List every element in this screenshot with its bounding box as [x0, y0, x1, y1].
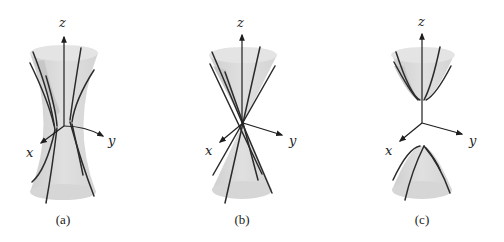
y-axis-label: y	[468, 133, 477, 148]
panel-b: z x y (b)	[205, 15, 297, 227]
lower-sheet-surface	[392, 146, 452, 199]
caption-b: (b)	[234, 212, 249, 227]
x-axis	[400, 123, 422, 141]
z-axis-label: z	[417, 14, 425, 29]
z-axis-label: z	[58, 15, 66, 30]
panel-c: z x y (c)	[385, 14, 477, 227]
z-axis-label: z	[236, 15, 244, 30]
y-axis	[422, 123, 462, 134]
caption-c: (c)	[415, 212, 429, 227]
figure-canvas: z x y (a) z x y (b)	[0, 0, 504, 242]
x-axis-label: x	[385, 143, 393, 158]
panel-a: z x y (a)	[26, 15, 116, 227]
caption-a: (a)	[56, 212, 70, 227]
x-axis-label: x	[26, 145, 34, 160]
y-axis-label: y	[107, 133, 116, 148]
x-axis-label: x	[205, 143, 213, 158]
y-axis-label: y	[288, 133, 297, 148]
y-axis	[243, 123, 282, 135]
